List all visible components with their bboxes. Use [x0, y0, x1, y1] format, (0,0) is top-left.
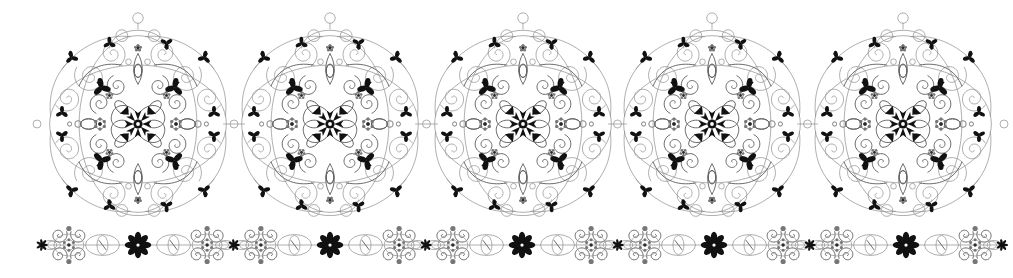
rosette-dot	[111, 152, 114, 155]
rosette-dot	[524, 46, 526, 48]
rosette-dot	[741, 149, 744, 152]
rosette-dot	[259, 238, 262, 241]
rosette-dot	[585, 246, 588, 249]
rosette-dot	[876, 152, 879, 155]
rosette-dot	[137, 44, 139, 46]
rosette-dot	[298, 93, 301, 96]
rosette-dot	[673, 127, 676, 130]
core-star-ray	[125, 121, 135, 128]
rosette-dot	[524, 200, 526, 202]
filigree-medallion-5	[815, 13, 992, 216]
rosette-dot	[668, 120, 671, 123]
rosette-dot	[362, 120, 365, 123]
medallion-quadrant	[624, 36, 716, 130]
trefoil-stem	[209, 135, 214, 136]
ornament-ellipse	[81, 119, 97, 129]
rosette-dot	[685, 93, 688, 96]
ornament-circle	[511, 183, 517, 189]
dotted-rosette	[94, 118, 106, 131]
rosette-dot	[552, 149, 555, 152]
rosette-dot	[134, 46, 136, 48]
rosette-dot	[201, 241, 204, 244]
rosette-dot	[712, 49, 714, 51]
trefoil-accent	[782, 130, 795, 142]
medallion-core	[694, 106, 730, 142]
rosette-dot	[643, 249, 646, 252]
flower-eye	[904, 243, 907, 246]
ornament-circle	[204, 122, 208, 126]
rosette-dot	[163, 152, 166, 155]
rosette-dot	[713, 200, 715, 202]
spiral-flourish	[649, 158, 677, 182]
trefoil-leaf	[357, 206, 361, 213]
rosette-dot	[367, 127, 370, 130]
trefoil-leaf	[212, 106, 216, 113]
trefoil-accent	[254, 181, 272, 199]
spiral-flourish	[169, 95, 186, 114]
rosette-dot	[684, 97, 687, 100]
rosette-dot	[300, 91, 303, 94]
rosette-hub	[682, 94, 685, 97]
rosette-dot	[357, 154, 360, 157]
rosette-dot	[179, 125, 182, 128]
rosette-dot	[139, 200, 141, 202]
rosette-dot	[108, 154, 111, 157]
rosette-dot	[744, 120, 747, 123]
flower-eye	[328, 243, 331, 246]
rosette-dot	[550, 154, 553, 157]
spiral-flourish	[962, 89, 985, 111]
rosette-dot	[928, 152, 931, 155]
dotted-rosette	[708, 197, 715, 204]
ornament-circle	[910, 59, 916, 65]
spiral-flourish	[151, 43, 173, 66]
rosette-dot	[165, 91, 168, 94]
rosette-hub	[174, 122, 177, 125]
trefoil-accent	[782, 106, 795, 118]
dotted-rosette	[326, 197, 333, 204]
rosette-dot	[479, 125, 482, 128]
rosette-dot	[708, 200, 710, 202]
ornament-ellipse	[326, 64, 334, 77]
rosette-dot	[299, 149, 302, 152]
rosette-dot	[549, 149, 552, 152]
spiral-flourish	[916, 43, 938, 66]
trefoil-accent	[486, 35, 503, 52]
knot-bottom-dot	[397, 259, 402, 264]
rosette-dot	[871, 93, 874, 96]
rosette-dot	[175, 118, 178, 121]
rosette-dot	[492, 149, 495, 152]
spiral-flourish	[361, 95, 378, 114]
spiral-flourish	[248, 89, 271, 111]
rosette-hub	[329, 199, 332, 202]
trefoil-stem	[254, 135, 259, 136]
ornament-circle	[891, 183, 897, 189]
rosette-dot	[495, 149, 498, 152]
rosette-dot	[362, 125, 365, 128]
rosette-dot	[259, 249, 262, 252]
trefoil-leaf	[597, 135, 601, 142]
rosette-dot	[555, 125, 558, 128]
rosette-dot	[371, 120, 374, 123]
rosette-dot	[899, 200, 901, 202]
finial-ring	[133, 13, 143, 23]
rosette-dot	[355, 152, 358, 155]
spiral-flourish	[916, 182, 938, 205]
core-eye	[901, 122, 905, 126]
strip-unit-1	[36, 226, 234, 264]
medallion-core	[885, 106, 921, 142]
filigree-border-strip	[36, 226, 1008, 264]
knot-bottom-dot	[205, 259, 210, 264]
ornament-ellipse	[655, 119, 671, 129]
core-star-ray	[135, 128, 142, 138]
rosette-dot	[930, 154, 933, 157]
rosette-dot	[99, 127, 102, 130]
rosette-dot	[286, 125, 289, 128]
ornament-ellipse	[134, 64, 142, 77]
rosette-hub	[108, 94, 111, 97]
rosette-dot	[72, 241, 75, 244]
rosette-dot	[398, 249, 401, 252]
dotted-rosette	[737, 149, 745, 157]
rosette-dot	[137, 201, 139, 203]
medallion-quadrant	[242, 36, 334, 130]
trefoil-accent	[247, 106, 260, 118]
